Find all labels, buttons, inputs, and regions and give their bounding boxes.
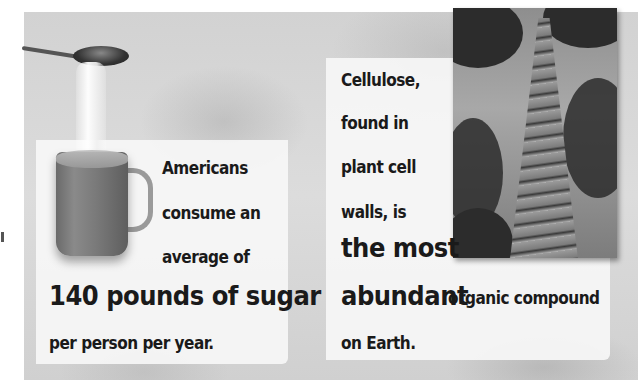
cellulose-text-line6: organic compound: [448, 288, 600, 308]
foliage: [453, 208, 513, 258]
mug-rim: [56, 150, 128, 168]
margin-mark: [1, 232, 4, 242]
tree-photo: [453, 8, 617, 258]
foliage: [453, 8, 523, 68]
sugar-text-line1: Americans: [162, 158, 248, 178]
sugar-highlight: 140 pounds of sugar: [49, 280, 321, 311]
cellulose-text-line3: plant cell: [341, 157, 416, 177]
cellulose-text-line2: found in: [341, 113, 408, 133]
foliage: [563, 78, 617, 198]
cellulose-text-line4: walls, is: [341, 202, 406, 222]
sugar-text-line5: per person per year.: [49, 333, 214, 353]
sugar-stream: [76, 62, 106, 162]
cellulose-highlight-1: the most: [341, 232, 459, 263]
cellulose-text-line7: on Earth.: [341, 333, 416, 353]
sugar-text-line2: consume an: [162, 203, 260, 223]
sugar-text-line3: average of: [162, 247, 249, 267]
cellulose-text-line1: Cellulose,: [341, 70, 420, 90]
foliage: [543, 8, 617, 48]
